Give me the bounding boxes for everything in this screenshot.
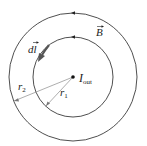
r2-label: r2 — [18, 80, 26, 94]
field-label: B — [96, 26, 103, 38]
dl-arrowhead-icon — [38, 53, 45, 62]
inner-direction-arrow-icon — [71, 35, 75, 38]
r2-arrowhead-icon — [14, 98, 19, 101]
current-dot — [71, 75, 75, 79]
outer-direction-arrow-icon — [71, 11, 75, 14]
r1-label: r1 — [60, 86, 68, 100]
dl-vector-arrow-icon — [37, 41, 40, 44]
current-label: Iout — [78, 71, 92, 86]
field-vector-arrow-icon — [102, 25, 105, 28]
dl-label: dl — [28, 43, 37, 55]
ampere-loop-diagram: Iout B dl r2 r1 — [0, 0, 147, 146]
